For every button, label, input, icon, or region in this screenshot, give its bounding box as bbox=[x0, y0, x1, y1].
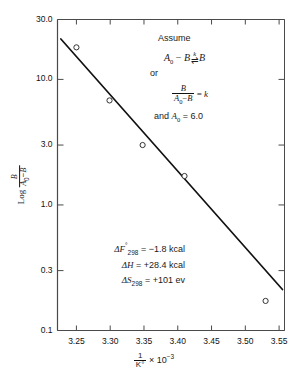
thermo-symbol: ΔS bbox=[122, 275, 132, 285]
x-tick-label: 3.35 bbox=[132, 336, 156, 346]
thermo-subscript: 298 bbox=[132, 280, 143, 287]
thermo-line: ΔH = +28.4 kcal bbox=[60, 258, 185, 273]
ratio-fraction: BA0−B bbox=[172, 84, 194, 105]
y-axis-title: Log B A0−B bbox=[14, 130, 28, 240]
equilibrium-equation: A0 − Bk⇌B bbox=[164, 50, 296, 67]
thermo-subscript: 298 bbox=[128, 249, 139, 256]
equilibrium-arrow-icon: k⇌ bbox=[191, 51, 198, 65]
y-tick-label: 0.1 bbox=[41, 325, 53, 335]
y-axis-title-fraction: B A0−B bbox=[11, 166, 31, 188]
x-axis-title-fraction: 1 K° bbox=[134, 352, 147, 370]
y-frac-numerator: B bbox=[11, 172, 19, 181]
x-frac-denominator: K° bbox=[134, 360, 147, 369]
thermo-symbol: ΔF bbox=[114, 244, 125, 254]
equilibrium-ratio-equation: BA0−B = k bbox=[172, 84, 296, 105]
y-tick-label: 30.0 bbox=[36, 14, 53, 24]
annotation-assume-block: Assume A0 − Bk⇌B or BA0−B = k and A0 = 6… bbox=[146, 32, 296, 125]
y-tick-label: 10.0 bbox=[36, 73, 53, 83]
thermo-equals: = bbox=[133, 260, 143, 270]
x-axis-title: 1 K° × 10−3 bbox=[0, 352, 308, 370]
initial-concentration-statement: and A0 = 6.0 bbox=[154, 110, 296, 125]
thermo-symbol: ΔH bbox=[122, 260, 134, 270]
thermo-equals: = bbox=[142, 275, 152, 285]
y-frac-denominator: A0−B bbox=[19, 166, 30, 188]
thermo-value: +28.4 kcal bbox=[144, 260, 185, 270]
thermo-equals: = bbox=[138, 244, 148, 254]
x-tick-label: 3.25 bbox=[64, 336, 88, 346]
annotation-thermodynamics-block: ΔF°298 = −1.8 kcalΔH = +28.4 kcalΔS298 =… bbox=[60, 241, 185, 289]
x-frac-numerator: 1 bbox=[136, 352, 144, 360]
y-tick-label: 1.0 bbox=[41, 199, 53, 209]
y-tick-label: 3.0 bbox=[41, 139, 53, 149]
x-tick-label: 3.45 bbox=[200, 336, 224, 346]
thermo-line: ΔF°298 = −1.8 kcal bbox=[60, 241, 185, 258]
thermo-line: ΔS298 = +101 ev bbox=[60, 273, 185, 289]
thermo-value: −1.8 kcal bbox=[149, 244, 185, 254]
y-tick-label: 0.3 bbox=[41, 265, 53, 275]
x-tick-label: 3.50 bbox=[233, 336, 257, 346]
figure-container: 30.010.03.01.00.30.1 3.253.303.353.403.4… bbox=[0, 0, 308, 377]
x-axis-exponent: −3 bbox=[167, 353, 174, 360]
x-tick-label: 3.55 bbox=[267, 336, 291, 346]
or-connector: or bbox=[150, 67, 296, 81]
thermo-value: +101 ev bbox=[153, 275, 185, 285]
assume-heading: Assume bbox=[158, 32, 296, 46]
x-tick-label: 3.30 bbox=[98, 336, 122, 346]
y-axis-title-prefix: Log bbox=[16, 190, 26, 205]
x-axis-multiplier: × 10 bbox=[149, 355, 167, 365]
x-tick-label: 3.40 bbox=[166, 336, 190, 346]
